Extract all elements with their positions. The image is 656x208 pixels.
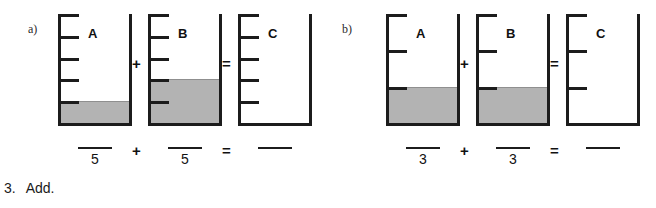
graduation-tick: [241, 101, 259, 104]
beaker-slot-a-2: C: [238, 14, 312, 126]
group-label-a: a): [28, 22, 37, 37]
problem-group-a: a) A + B: [0, 0, 328, 180]
graduation-ticks: [151, 14, 173, 123]
worksheet-exercise: a) A + B: [0, 0, 656, 208]
fraction-bar: [168, 147, 202, 149]
group-label-b: b): [342, 22, 352, 37]
graduation-tick: [479, 14, 497, 17]
beaker-slot-b-1: B: [476, 14, 550, 126]
beaker-bottom: [566, 123, 640, 126]
fraction-numerator[interactable]: [70, 134, 120, 145]
graduation-tick: [241, 36, 259, 39]
operator-plus-top: +: [460, 55, 469, 72]
graduation-tick: [241, 58, 259, 61]
operator-plus-bottom: +: [460, 142, 469, 159]
graduation-tick: [61, 58, 79, 61]
exercise-instruction-text: Add.: [26, 180, 55, 196]
beaker-slot-a-1: B: [148, 14, 222, 126]
beaker-graphic: [148, 14, 222, 126]
operator-plus-bottom: +: [132, 142, 141, 159]
beaker-graphic: [238, 14, 312, 126]
fraction-numerator[interactable]: [160, 134, 210, 145]
operator-equals-bottom: =: [222, 142, 231, 159]
beaker-graphic: [58, 14, 132, 126]
graduation-tick: [61, 36, 79, 39]
graduation-tick: [479, 87, 497, 90]
graduation-tick: [479, 50, 497, 53]
beaker-right-wall: [637, 14, 640, 126]
fraction-denominator: 3: [398, 150, 448, 168]
fraction-answer-blank[interactable]: 5: [160, 134, 210, 168]
fraction-bar: [496, 147, 530, 149]
fraction-numerator[interactable]: [488, 134, 538, 145]
graduation-tick: [151, 36, 169, 39]
beaker-slot-b-0: A: [386, 14, 460, 126]
operator-equals-top: =: [222, 55, 231, 72]
fraction-denominator: 5: [70, 150, 120, 168]
graduation-tick: [569, 50, 587, 53]
fraction-denominator[interactable]: [578, 150, 628, 168]
beaker-graphic: [386, 14, 460, 126]
operator-plus-top: +: [132, 55, 141, 72]
fraction-sentence-a: 5 + 5 =: [0, 134, 328, 174]
operator-equals-top: =: [550, 55, 559, 72]
graduation-tick: [569, 14, 587, 17]
fraction-bar: [258, 147, 292, 149]
graduation-ticks: [389, 14, 411, 123]
beaker-bottom: [386, 123, 460, 126]
beaker-slot-b-2: C: [566, 14, 640, 126]
graduation-ticks: [61, 14, 83, 123]
graduation-tick: [151, 79, 169, 82]
fraction-denominator: 5: [160, 150, 210, 168]
graduation-tick: [61, 14, 79, 17]
beaker-graphic: [566, 14, 640, 126]
fraction-answer-blank[interactable]: [578, 134, 628, 168]
graduation-tick: [61, 101, 79, 104]
fraction-bar: [78, 147, 112, 149]
graduation-tick: [389, 50, 407, 53]
fraction-sentence-b: 3 + 3 =: [328, 134, 656, 174]
graduation-ticks: [241, 14, 263, 123]
graduation-tick: [389, 87, 407, 90]
exercise-number: 3.: [4, 180, 16, 196]
fraction-denominator[interactable]: [250, 150, 300, 168]
graduation-tick: [241, 79, 259, 82]
fraction-denominator: 3: [488, 150, 538, 168]
fraction-numerator[interactable]: [578, 134, 628, 145]
beaker-bottom: [148, 123, 222, 126]
fraction-bar: [406, 147, 440, 149]
graduation-tick: [151, 101, 169, 104]
fraction-answer-blank[interactable]: 3: [398, 134, 448, 168]
fraction-answer-blank[interactable]: 5: [70, 134, 120, 168]
exercise-instruction: 3.Add.: [4, 180, 55, 196]
problem-group-b: b) A + B: [328, 0, 656, 180]
fraction-answer-blank[interactable]: 3: [488, 134, 538, 168]
graduation-tick: [151, 58, 169, 61]
graduation-tick: [241, 14, 259, 17]
graduation-tick: [389, 14, 407, 17]
fraction-numerator[interactable]: [398, 134, 448, 145]
graduation-tick: [61, 79, 79, 82]
beaker-slot-a-0: A: [58, 14, 132, 126]
graduation-tick: [569, 87, 587, 90]
fraction-answer-blank[interactable]: [250, 134, 300, 168]
beaker-bottom: [238, 123, 312, 126]
operator-equals-bottom: =: [550, 142, 559, 159]
graduation-ticks: [569, 14, 591, 123]
graduation-tick: [151, 14, 169, 17]
beaker-right-wall: [309, 14, 312, 126]
beaker-bottom: [58, 123, 132, 126]
fraction-bar: [586, 147, 620, 149]
fraction-numerator[interactable]: [250, 134, 300, 145]
beaker-graphic: [476, 14, 550, 126]
graduation-ticks: [479, 14, 501, 123]
beaker-bottom: [476, 123, 550, 126]
